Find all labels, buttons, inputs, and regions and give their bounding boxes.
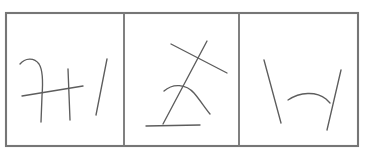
right-slanted-stroke	[327, 70, 341, 130]
outer-border	[6, 13, 358, 146]
sketch-canvas: Handwritten stroke panels Three boxed pa…	[0, 0, 366, 158]
base-horizontal-stroke	[146, 125, 200, 126]
vertical-stroke	[68, 69, 70, 120]
handwriting-sketch-svg	[0, 0, 366, 158]
panel-3-strokes	[264, 60, 341, 130]
slanted-stroke	[96, 59, 107, 115]
cross-diagonal-stroke	[171, 44, 227, 73]
flat-arch-stroke	[288, 93, 330, 103]
panel-1-strokes	[20, 59, 107, 122]
curved-hook-stroke	[20, 59, 43, 122]
panel-2-strokes	[146, 41, 227, 126]
left-slanted-stroke	[264, 60, 281, 123]
long-diagonal-stroke	[163, 41, 207, 124]
long-horizontal-stroke	[22, 86, 83, 96]
